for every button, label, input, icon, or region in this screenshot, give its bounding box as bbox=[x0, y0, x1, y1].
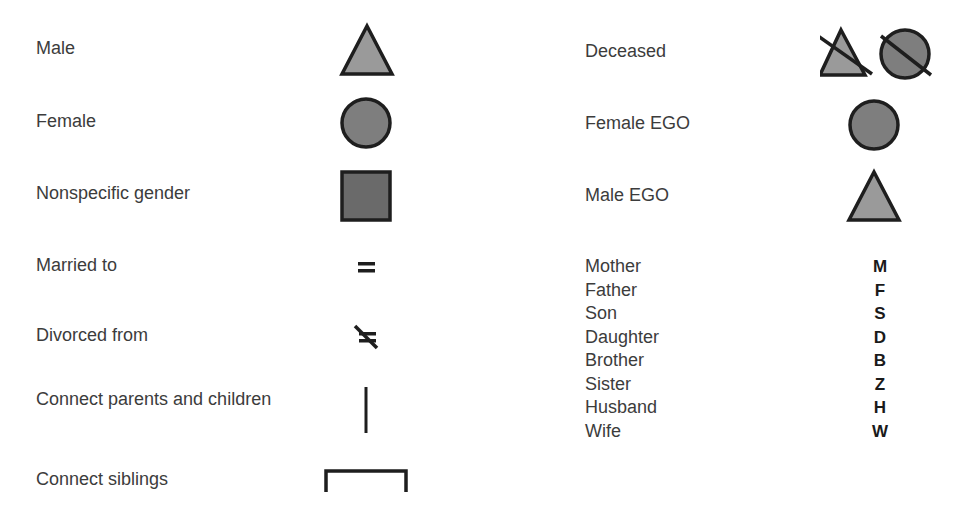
label-connect-siblings: Connect siblings bbox=[36, 469, 168, 490]
kin-term: Mother bbox=[585, 255, 659, 279]
label-divorced-from: Divorced from bbox=[36, 325, 148, 346]
kin-abbreviations-list: M F S D B Z H W bbox=[870, 255, 890, 443]
label-female: Female bbox=[36, 111, 96, 132]
kin-abbr: Z bbox=[870, 373, 890, 397]
parent-child-line-icon bbox=[360, 385, 372, 437]
kin-abbr: W bbox=[870, 420, 890, 444]
label-nonspecific-gender: Nonspecific gender bbox=[36, 183, 190, 204]
female-circle-icon bbox=[338, 95, 398, 155]
kin-term: Son bbox=[585, 302, 659, 326]
label-female-ego: Female EGO bbox=[585, 113, 690, 134]
kin-abbr: D bbox=[870, 326, 890, 350]
label-male: Male bbox=[36, 38, 75, 59]
kin-term: Wife bbox=[585, 420, 659, 444]
male-triangle-icon bbox=[338, 22, 398, 82]
male-ego-triangle-icon bbox=[846, 168, 906, 228]
siblings-bracket-icon bbox=[322, 468, 412, 494]
label-deceased: Deceased bbox=[585, 41, 666, 62]
label-male-ego: Male EGO bbox=[585, 185, 669, 206]
kin-abbr: S bbox=[870, 302, 890, 326]
divorced-icon bbox=[352, 322, 382, 352]
nonspecific-square-icon bbox=[338, 168, 398, 228]
kin-abbr: B bbox=[870, 349, 890, 373]
kin-term: Sister bbox=[585, 373, 659, 397]
kin-abbr: M bbox=[870, 255, 890, 279]
kin-terms-list: Mother Father Son Daughter Brother Siste… bbox=[585, 255, 659, 443]
kin-abbr: H bbox=[870, 396, 890, 420]
label-married-to: Married to bbox=[36, 255, 117, 276]
kin-term: Husband bbox=[585, 396, 659, 420]
married-equals-icon bbox=[355, 258, 379, 278]
kin-term: Daughter bbox=[585, 326, 659, 350]
female-ego-circle-icon bbox=[846, 98, 906, 158]
kin-term: Father bbox=[585, 279, 659, 303]
kin-term: Brother bbox=[585, 349, 659, 373]
label-connect-parents-children: Connect parents and children bbox=[36, 389, 271, 410]
deceased-icon bbox=[820, 22, 940, 82]
kin-abbr: F bbox=[870, 279, 890, 303]
